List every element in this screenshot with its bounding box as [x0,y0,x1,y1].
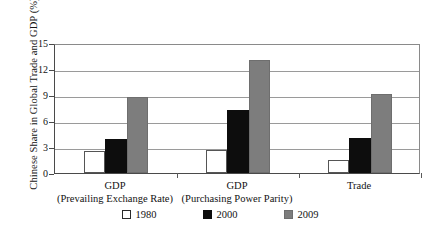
bar [84,151,106,173]
bar-chart-figure: Chinese Share in Global Trade and GDP (%… [0,0,440,242]
legend-label: 1980 [136,209,157,220]
y-axis-tick-label: 15 [24,39,48,49]
gray-square-swatch [284,210,293,219]
legend-item[interactable]: 2000 [203,209,238,220]
chart-legend: 198020002009 [0,209,440,220]
bar [105,139,127,173]
legend-label: 2000 [217,209,238,220]
bar [127,97,149,173]
y-axis-tick-label: 9 [24,91,48,101]
bar [371,94,393,173]
y-axis-tick-label: 12 [24,65,48,75]
legend-item[interactable]: 2009 [284,209,319,220]
y-axis-tick-label: 6 [24,117,48,127]
x-axis-category-label: Trade [269,180,440,193]
x-axis-tick-mark [177,173,178,178]
x-axis-tick-mark [421,173,422,178]
bar [328,160,350,173]
bar [349,138,371,173]
y-axis-tick-label: 0 [24,169,48,179]
x-axis-tick-mark [299,173,300,178]
plot-area [54,44,420,174]
bar [206,150,228,173]
legend-item[interactable]: 1980 [122,209,157,220]
white-square-swatch [122,210,131,219]
y-axis-tick-label: 3 [24,143,48,153]
y-axis-tick-mark [49,174,54,175]
category-label-line-2: (Purchasing Power Parity) [147,193,327,206]
category-label-line-1: Trade [269,180,440,193]
bar [249,60,271,173]
black-square-swatch [203,210,212,219]
bar [227,110,249,173]
legend-label: 2009 [298,209,319,220]
